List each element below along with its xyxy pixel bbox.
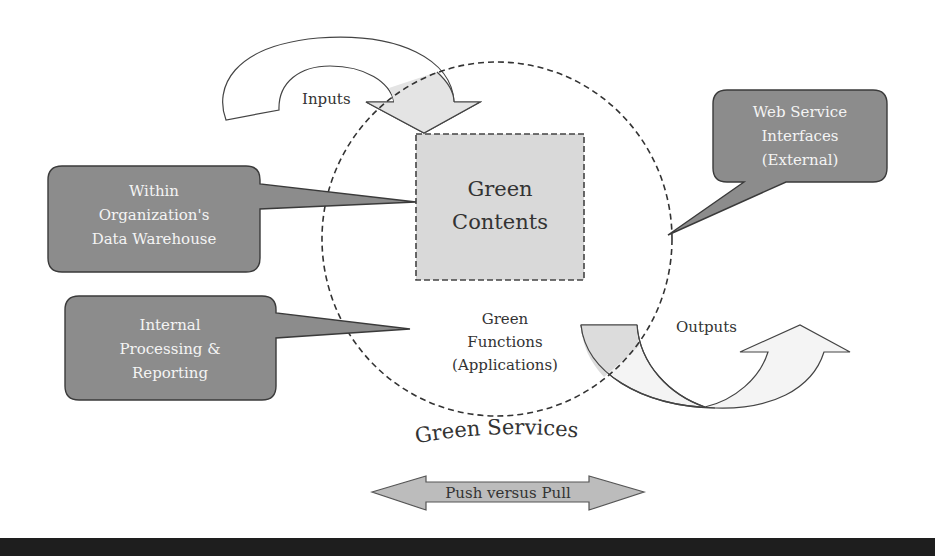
- green-contents-label-line2: Contents: [452, 210, 548, 234]
- callout-web-service-line2: Interfaces: [761, 127, 838, 145]
- callout-data-warehouse: Within Organization's Data Warehouse: [48, 166, 416, 272]
- callout-internal-processing: Internal Processing & Reporting: [65, 296, 410, 400]
- green-contents-box: [416, 134, 584, 280]
- callout-data-warehouse-line2: Organization's: [99, 206, 210, 224]
- green-functions-line1: Green: [482, 310, 529, 328]
- outputs-label: Outputs: [676, 318, 737, 336]
- callout-internal-processing-line3: Reporting: [132, 364, 208, 382]
- outputs-arrow: [581, 325, 850, 408]
- green-services-title-text: Green Services: [413, 415, 580, 448]
- green-functions-line2: Functions: [467, 333, 542, 351]
- bottom-band: [0, 538, 935, 556]
- push-pull-arrow: Push versus Pull: [372, 476, 644, 510]
- callout-data-warehouse-line3: Data Warehouse: [92, 230, 217, 248]
- callout-internal-processing-line1: Internal: [139, 316, 200, 334]
- inputs-label: Inputs: [302, 90, 351, 108]
- callout-web-service-line1: Web Service: [753, 103, 847, 121]
- green-services-diagram: Green Contents Inputs Outputs Green Func…: [0, 0, 935, 556]
- callout-data-warehouse-line1: Within: [129, 182, 179, 200]
- inputs-arrow: [223, 37, 480, 133]
- green-services-title: Green Services: [413, 415, 580, 448]
- green-contents-label-line1: Green: [467, 177, 532, 201]
- push-pull-label: Push versus Pull: [445, 484, 571, 502]
- callout-web-service-line3: (External): [762, 151, 839, 169]
- green-functions-line3: (Applications): [452, 356, 558, 374]
- callout-internal-processing-line2: Processing &: [119, 340, 220, 358]
- callout-web-service: Web Service Interfaces (External): [668, 90, 887, 235]
